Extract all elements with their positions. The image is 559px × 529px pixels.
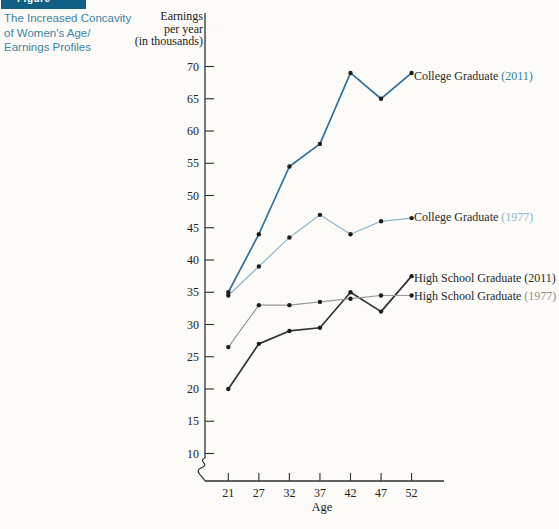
data-point-high-school-graduate-1977 (226, 345, 230, 349)
x-axis-title: Age (312, 500, 333, 514)
legend-label-high-school-graduate-1977: High School Graduate (1977) (414, 289, 556, 303)
data-point-high-school-graduate-1977 (257, 303, 261, 307)
x-tick-label: 27 (253, 486, 265, 500)
earnings-age-profiles-chart: 1015202530354045505560657021273237424752… (0, 0, 559, 529)
series-line-college-graduate-2011 (228, 73, 411, 292)
y-axis-break-mark (198, 458, 205, 481)
data-point-college-graduate-1977 (226, 293, 230, 297)
x-tick-label: 37 (314, 486, 326, 500)
data-point-high-school-graduate-2011 (318, 326, 322, 330)
y-tick-label: 25 (187, 350, 199, 364)
x-tick-label: 32 (283, 486, 295, 500)
page-background: Figure The Increased Concavity of Women'… (0, 0, 559, 529)
data-point-college-graduate-1977 (287, 235, 291, 239)
y-tick-label: 70 (187, 60, 199, 74)
y-tick-label: 40 (187, 253, 199, 267)
data-point-high-school-graduate-1977 (287, 303, 291, 307)
legend-label-college-graduate-2011: College Graduate (2011) (414, 69, 533, 83)
series-line-high-school-graduate-2011 (228, 276, 411, 389)
x-tick-label: 42 (345, 486, 357, 500)
legend-label-college-graduate-1977: College Graduate (1977) (414, 210, 533, 224)
y-tick-label: 20 (187, 382, 199, 396)
data-point-high-school-graduate-2011 (348, 290, 352, 294)
data-point-high-school-graduate-2011 (226, 387, 230, 391)
y-tick-label: 60 (187, 124, 199, 138)
y-tick-label: 15 (187, 414, 199, 428)
data-point-high-school-graduate-1977 (318, 300, 322, 304)
x-tick-label: 21 (222, 486, 234, 500)
data-point-college-graduate-2011 (379, 97, 383, 101)
data-point-college-graduate-1977 (318, 213, 322, 217)
y-tick-label: 50 (187, 189, 199, 203)
y-tick-label: 35 (187, 285, 199, 299)
y-tick-label: 65 (187, 92, 199, 106)
data-point-high-school-graduate-1977 (379, 293, 383, 297)
y-tick-label: 45 (187, 221, 199, 235)
y-axis-title-line: (in thousands) (135, 34, 203, 48)
x-tick-label: 52 (406, 486, 418, 500)
data-point-college-graduate-2011 (257, 232, 261, 236)
data-point-college-graduate-2011 (318, 142, 322, 146)
y-tick-label: 30 (187, 318, 199, 332)
data-point-high-school-graduate-1977 (348, 297, 352, 301)
data-point-college-graduate-2011 (348, 71, 352, 75)
series-line-college-graduate-1977 (228, 215, 411, 296)
data-point-high-school-graduate-2011 (257, 342, 261, 346)
data-point-college-graduate-1977 (379, 219, 383, 223)
y-tick-label: 55 (187, 156, 199, 170)
legend-label-high-school-graduate-2011: High School Graduate (2011) (414, 271, 556, 285)
data-point-high-school-graduate-2011 (379, 309, 383, 313)
data-point-college-graduate-1977 (348, 232, 352, 236)
data-point-college-graduate-2011 (287, 164, 291, 168)
x-tick-label: 47 (375, 486, 387, 500)
data-point-college-graduate-1977 (257, 264, 261, 268)
data-point-high-school-graduate-2011 (287, 329, 291, 333)
y-tick-label: 10 (187, 447, 199, 461)
